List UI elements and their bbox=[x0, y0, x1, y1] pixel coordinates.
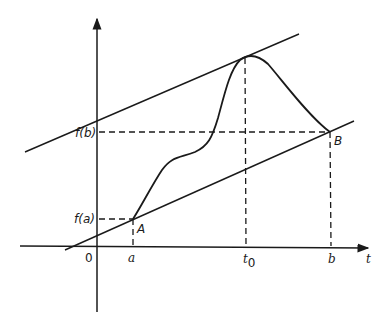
fa-label: f(a) bbox=[74, 212, 95, 226]
fb-label: f(b) bbox=[75, 126, 96, 140]
a-tick-label: a bbox=[128, 251, 135, 265]
t0-dashed-guide bbox=[245, 58, 246, 246]
function-curve bbox=[133, 56, 330, 219]
b-dashed-guide bbox=[330, 132, 331, 246]
t-axis-label: t bbox=[366, 252, 371, 266]
point-b-label: B bbox=[334, 134, 342, 148]
mean-value-diagram: f(a) f(b) 0 a t0 b t A B bbox=[0, 0, 391, 330]
t0-tick-label: t0 bbox=[243, 252, 255, 270]
b-tick-label: b bbox=[328, 252, 336, 266]
origin-label: 0 bbox=[85, 251, 93, 265]
point-a-label: A bbox=[136, 222, 145, 236]
upper-tangent-line bbox=[25, 34, 299, 152]
